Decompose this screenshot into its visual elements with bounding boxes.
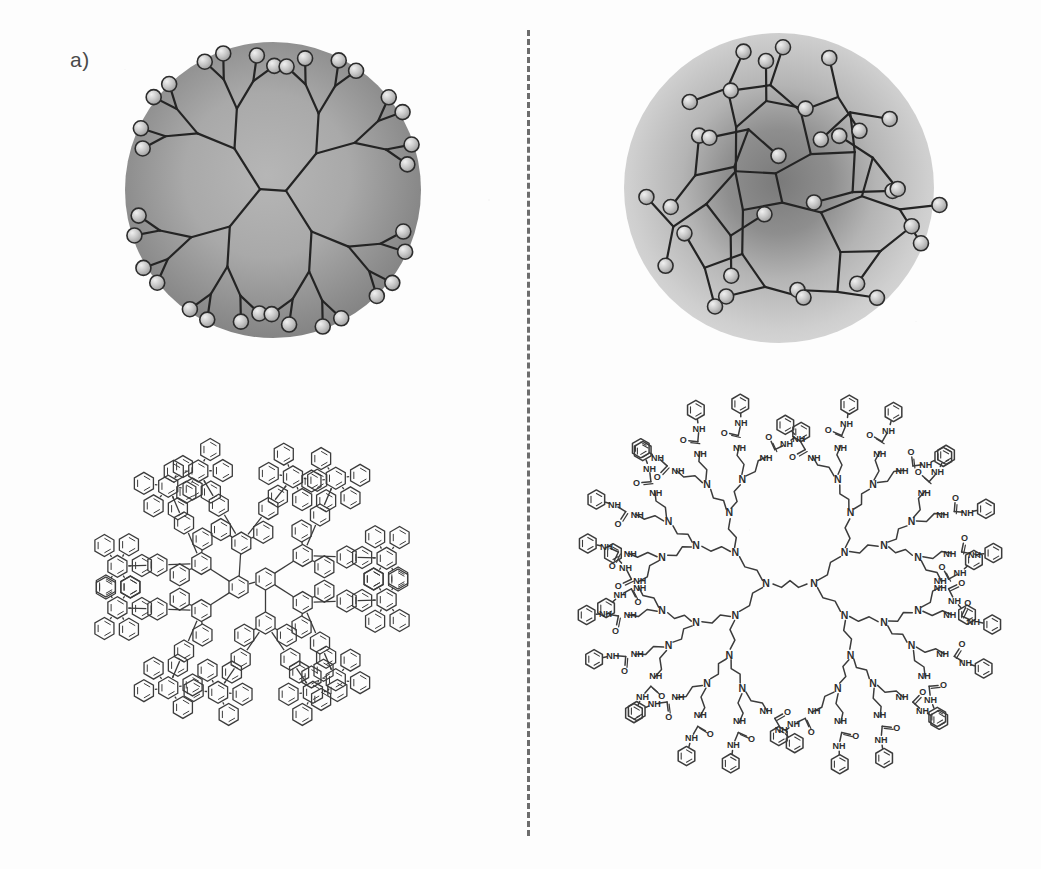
end-group-bead — [135, 141, 150, 156]
bond-path — [641, 451, 646, 454]
ring-ring-bond — [123, 554, 124, 556]
ring-ring-bond — [314, 601, 336, 602]
bond-path — [594, 653, 599, 656]
bond-path — [840, 758, 845, 761]
bond-path — [696, 404, 701, 407]
bond-path — [818, 557, 841, 581]
atom-label: O — [665, 712, 672, 722]
atom-label: NH — [631, 649, 644, 659]
ring-ring-bond — [123, 576, 124, 578]
atom-label: NH — [916, 706, 929, 716]
bond-path — [840, 660, 849, 683]
end-group-bead — [658, 258, 673, 273]
atom-label: NH — [733, 716, 746, 726]
aromatic-bond — [400, 541, 406, 545]
atom-label: N — [692, 616, 700, 628]
end-group-bead — [334, 311, 349, 326]
aromatic-bond — [293, 470, 299, 474]
ring-ring-bond — [251, 537, 253, 538]
atom-label: N — [834, 682, 842, 694]
aromatic-bond — [263, 525, 269, 529]
aromatic-bond — [178, 512, 184, 516]
ring-ring-bond — [328, 467, 329, 469]
bond-path — [984, 662, 989, 665]
atom-label: NH — [775, 725, 788, 735]
bond-path — [587, 609, 592, 612]
aromatic-bond — [184, 527, 190, 531]
atom-label: O — [789, 452, 796, 462]
polyphenylene-structure-a — [95, 439, 409, 726]
aromatic-bond — [106, 590, 112, 594]
bond-path — [845, 519, 850, 548]
ring-ring-bond — [110, 555, 111, 557]
aromatic-bond — [362, 604, 368, 608]
end-group-bead — [904, 219, 919, 234]
aromatic-bond — [303, 559, 309, 563]
aromatic-bond — [374, 583, 380, 587]
aromatic-bond — [229, 718, 235, 722]
aromatic-bond — [239, 580, 245, 584]
aromatic-bond — [154, 672, 160, 676]
aromatic-bond — [289, 687, 295, 691]
atom-label: O — [609, 561, 616, 571]
aromatic-bond — [287, 639, 293, 643]
atom-label: NH — [936, 510, 949, 520]
end-group-bead — [813, 132, 828, 147]
end-group-bead — [349, 63, 364, 78]
aromatic-bond — [302, 631, 308, 635]
aromatic-bond — [202, 532, 208, 536]
bond-path — [711, 659, 727, 679]
aromatic-bond — [263, 536, 269, 540]
ring-ring-bond — [392, 609, 393, 611]
end-group-bead — [400, 157, 415, 172]
atom-label: NH — [649, 671, 662, 681]
aromatic-bond — [336, 482, 342, 486]
aromatic-bond — [210, 453, 216, 457]
end-group-bead — [870, 290, 885, 305]
end-group-bead — [381, 90, 396, 105]
aromatic-bond — [350, 501, 356, 505]
end-group-bead — [197, 54, 212, 69]
end-group-bead — [150, 275, 165, 290]
bond-path — [954, 503, 955, 512]
atom-label: O — [952, 493, 959, 503]
end-group-bead — [200, 312, 215, 327]
end-group-bead — [757, 207, 772, 222]
bond-path — [731, 485, 740, 508]
atom-label: NH — [895, 466, 908, 476]
bond-path — [992, 628, 997, 631]
ring-ring-bond — [160, 495, 161, 497]
atom-label: O — [893, 723, 900, 733]
bond-path — [617, 616, 619, 625]
atom-label: N — [914, 604, 922, 616]
aromatic-bond — [302, 535, 308, 539]
bond-path — [687, 750, 692, 753]
atom-label: NH — [694, 710, 707, 720]
end-group-bead — [315, 319, 330, 334]
end-group-bead — [932, 197, 947, 212]
end-group-bead — [798, 101, 813, 116]
aromatic-bond — [400, 530, 406, 534]
end-group-bead — [404, 137, 419, 152]
aromatic-bond — [400, 624, 406, 628]
aromatic-bond — [144, 694, 150, 698]
aromatic-bond — [183, 711, 189, 715]
ring-ring-bond — [358, 557, 376, 558]
ring-ring-bond — [249, 582, 255, 584]
bond-path — [588, 547, 593, 550]
schematic-a — [125, 42, 421, 338]
aromatic-bond — [201, 567, 207, 571]
atom-label: O — [654, 472, 661, 482]
bond-path — [850, 617, 879, 622]
end-group-bead — [131, 208, 146, 223]
bond-path — [993, 556, 998, 559]
atom-label: N — [726, 506, 734, 518]
atom-label: O — [852, 731, 859, 741]
aromatic-bond — [184, 644, 190, 648]
atom-label: NH — [633, 576, 646, 586]
aromatic-bond — [311, 474, 317, 478]
ring-ring-bond — [239, 554, 240, 576]
atom-label: NH — [875, 735, 888, 745]
bond-path — [889, 547, 913, 555]
atom-label: NH — [792, 434, 805, 444]
